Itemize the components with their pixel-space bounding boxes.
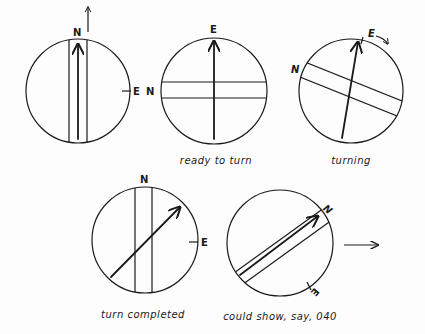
compass-panel-ready: E N ready to turn: [146, 24, 275, 166]
direction-arrow-icon: [240, 216, 318, 275]
east-label: E: [368, 28, 375, 39]
direction-arrow-icon: [342, 42, 358, 138]
compass-panel-start: N E: [26, 7, 140, 150]
compass-dial: [299, 39, 403, 143]
orienting-band: [135, 180, 152, 300]
rotation-arrow-icon: [376, 36, 388, 44]
compass-dial: [92, 187, 198, 293]
north-label: N: [140, 174, 148, 185]
north-label: N: [73, 27, 81, 38]
compass-panel-completed: N E turn completed: [92, 174, 208, 320]
caption: could show, say, 040: [223, 311, 337, 322]
east-label: E: [210, 24, 217, 35]
compass-panel-bearing: N E could show, say, 040: [220, 190, 343, 322]
caption: turning: [331, 155, 371, 166]
orienting-band: [155, 82, 275, 98]
compass-diagram: N E E N ready to turn N E turning: [0, 0, 425, 334]
compass-dial: [227, 190, 333, 296]
north-label: N: [291, 64, 300, 75]
north-label: N: [321, 202, 335, 216]
caption: turn completed: [101, 309, 185, 320]
direction-arrow-icon: [111, 207, 180, 277]
east-label: E: [201, 237, 208, 248]
north-label: N: [146, 86, 154, 97]
east-label: E: [133, 86, 140, 97]
compass-panel-turning: N E turning: [290, 28, 412, 166]
caption: ready to turn: [180, 155, 252, 166]
